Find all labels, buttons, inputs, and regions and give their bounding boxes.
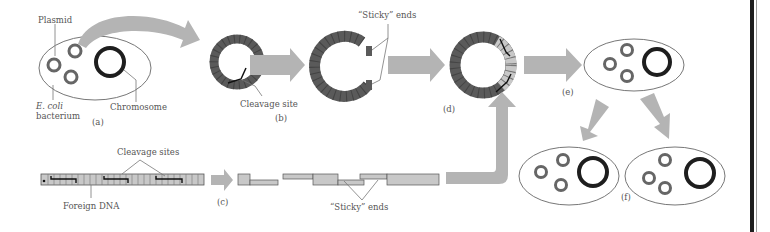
panel-label-f: (f) bbox=[621, 192, 631, 202]
panel-f-daughter-cells: (f) bbox=[519, 147, 725, 205]
foreign-dna-strip: Cleavage sites Foreign DNA bbox=[41, 147, 204, 211]
arrow-down-right-icon bbox=[640, 93, 670, 139]
ecoli-label: E. coli bbox=[35, 101, 63, 111]
sticky-ends-label-top: “Sticky” ends bbox=[358, 10, 416, 20]
sticky-ends-label-bottom: “Sticky” ends bbox=[330, 202, 388, 212]
plasmid-icon bbox=[660, 155, 671, 166]
plasmid-icon bbox=[622, 45, 633, 56]
panel-label-b: (b) bbox=[275, 113, 287, 123]
arrow-right-icon bbox=[211, 169, 233, 191]
plasmid-label: Plasmid bbox=[38, 15, 73, 25]
panel-label-c: (c) bbox=[217, 197, 228, 207]
plasmid-icon bbox=[556, 180, 567, 191]
plasmid-icon bbox=[644, 173, 655, 184]
recombinant-dna-diagram: Plasmid E. coli bacterium Chromosome (a)… bbox=[0, 0, 770, 232]
arrow-right-icon bbox=[524, 48, 582, 82]
plasmid-icon bbox=[48, 59, 60, 71]
chromosome-icon bbox=[96, 48, 124, 76]
panel-b-plasmid: Cleavage site (b) bbox=[214, 39, 298, 123]
panel-label-e: (e) bbox=[562, 87, 574, 97]
curved-arrow-icon bbox=[78, 16, 200, 48]
arrow-up-icon bbox=[446, 92, 516, 184]
chromosome-label: Chromosome bbox=[110, 102, 167, 112]
opened-plasmid: “Sticky” ends bbox=[314, 10, 416, 96]
panel-e-bacterium: (e) bbox=[562, 39, 684, 97]
plasmid-icon bbox=[558, 155, 569, 166]
cleavage-sites-label: Cleavage sites bbox=[117, 147, 179, 157]
plasmid-icon bbox=[605, 59, 616, 70]
arrow-right-icon bbox=[388, 48, 445, 82]
panel-label-d: (d) bbox=[443, 104, 455, 114]
plasmid-icon bbox=[69, 45, 81, 57]
plasmid-icon bbox=[622, 71, 633, 82]
plasmid-icon bbox=[660, 183, 671, 194]
chromosome-icon bbox=[644, 49, 670, 75]
bacterium-label: bacterium bbox=[36, 111, 80, 121]
cleavage-site-label: Cleavage site bbox=[240, 99, 298, 109]
dna-fragments bbox=[238, 174, 439, 185]
plasmid-icon bbox=[536, 167, 547, 178]
panel-label-a: (a) bbox=[92, 117, 104, 127]
page-border-thin bbox=[756, 0, 757, 232]
chromosome-icon bbox=[579, 158, 607, 186]
page-border-thick bbox=[750, 0, 754, 232]
plasmid-icon bbox=[65, 71, 77, 83]
chromosome-icon bbox=[686, 159, 714, 187]
foreign-dna-label: Foreign DNA bbox=[63, 201, 120, 211]
arrow-down-left-icon bbox=[580, 99, 609, 141]
